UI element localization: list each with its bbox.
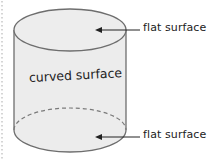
top-flat-surface-label: flat surface xyxy=(143,21,206,34)
cylinder-diagram: flat surface curved surface flat surface xyxy=(0,0,209,161)
bottom-flat-surface-label: flat surface xyxy=(143,128,206,141)
